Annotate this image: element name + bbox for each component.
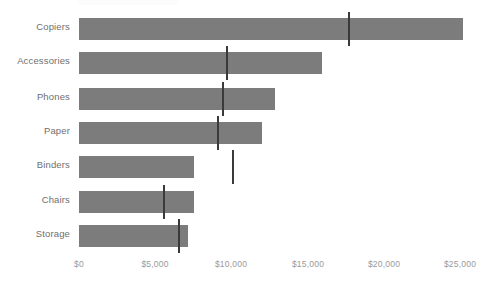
reference-line-paper [217, 116, 219, 150]
x-tick-label-1: $5,000 [141, 260, 168, 269]
chart-row: Paper [0, 118, 487, 148]
reference-line-storage [178, 219, 180, 253]
reference-line-accessories [226, 46, 228, 80]
chart-row: Chairs [0, 187, 487, 217]
plot-area: Copiers Accessories Phones Paper Binders [0, 0, 487, 281]
bar-accessories[interactable] [79, 52, 322, 74]
reference-line-binders [232, 150, 234, 184]
bullet-chart: Copiers Accessories Phones Paper Binders [0, 0, 487, 281]
chart-row: Storage [0, 221, 487, 251]
bar-paper[interactable] [79, 122, 262, 144]
bar-phones[interactable] [79, 88, 275, 110]
category-label-phones: Phones [0, 92, 70, 102]
x-tick-label-0: $0 [74, 260, 84, 269]
x-tick-label-4: $20,000 [368, 260, 400, 269]
reference-line-copiers [348, 12, 350, 46]
chart-row: Copiers [0, 14, 487, 44]
bar-chairs[interactable] [79, 191, 194, 213]
category-label-accessories: Accessories [0, 56, 70, 66]
x-tick-label-2: $10,000 [215, 260, 247, 269]
reference-line-phones [222, 82, 224, 116]
bar-binders[interactable] [79, 156, 194, 178]
chart-row: Phones [0, 84, 487, 114]
category-label-storage: Storage [0, 229, 70, 239]
category-label-copiers: Copiers [0, 22, 70, 32]
bar-storage[interactable] [79, 225, 188, 247]
bar-copiers[interactable] [79, 18, 463, 40]
category-label-chairs: Chairs [0, 195, 70, 205]
chart-row: Accessories [0, 48, 487, 78]
chart-row: Binders [0, 152, 487, 182]
reference-line-chairs [163, 185, 165, 219]
x-tick-label-5: $25,000 [444, 260, 476, 269]
x-axis: $0 $5,000 $10,000 $15,000 $20,000 $25,00… [0, 260, 487, 276]
category-label-binders: Binders [0, 160, 70, 170]
x-tick-label-3: $15,000 [292, 260, 324, 269]
category-label-paper: Paper [0, 126, 70, 136]
